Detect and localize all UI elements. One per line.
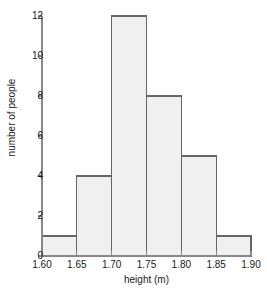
y-axis-tick-label: 8 [13,90,43,101]
histogram-bar [77,176,112,256]
histogram-bar [42,236,77,256]
y-axis-tick-label: 2 [13,210,43,221]
x-axis-tick-label: 1.90 [231,259,267,270]
y-axis-tick-label: 12 [13,10,43,21]
y-axis-tick-label: 6 [13,130,43,141]
y-axis-tick-label: 4 [13,170,43,181]
y-axis-tick-label: 10 [13,50,43,61]
histogram-bar [112,16,147,256]
histogram-bar [181,156,216,256]
histogram-bar [216,236,251,256]
histogram-bar [147,96,182,256]
y-axis-label: number of people [6,58,17,178]
x-axis-label: height (m) [42,274,251,285]
histogram-chart: number of people height (m) 024681012 1.… [0,0,267,293]
